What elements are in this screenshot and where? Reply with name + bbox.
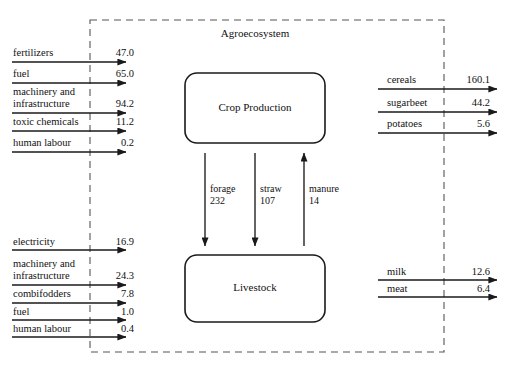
input-label-machinery-livestock-line2: infrastructure: [13, 270, 70, 282]
output-value-meat: 6.4: [447, 283, 490, 294]
output-value-milk: 12.6: [447, 266, 490, 277]
input-value-fuel-crop: 65.0: [96, 68, 134, 79]
output-label-cereals: cereals: [387, 74, 416, 85]
output-label-sugarbeet: sugarbeet: [387, 97, 427, 108]
output-value-sugarbeet: 44.2: [447, 97, 490, 108]
input-value-machinery-crop: 94.2: [96, 98, 134, 109]
internal-value-manure: 14: [309, 195, 319, 206]
input-label-machinery-livestock-line1: machinery and: [13, 258, 75, 270]
internal-label-straw: straw: [260, 183, 282, 194]
crop-production-label: Crop Production: [185, 101, 325, 113]
output-label-meat: meat: [387, 283, 407, 294]
internal-label-forage: forage: [210, 183, 236, 194]
internal-label-manure: manure: [309, 183, 339, 194]
input-label-combifodders: combifodders: [13, 288, 71, 299]
input-value-combifodders: 7.8: [96, 288, 134, 299]
input-label-fertilizers: fertilizers: [13, 47, 53, 58]
agroecosystem-diagram: Agroecosystem Crop Production Livestock …: [0, 0, 507, 372]
input-value-toxic-chemicals: 11.2: [96, 116, 134, 127]
input-label-machinery-crop-line1: machinery and: [13, 86, 75, 98]
output-value-cereals: 160.1: [447, 74, 490, 85]
input-value-human-labour-crop: 0.2: [96, 137, 134, 148]
input-label-fuel-crop: fuel: [13, 68, 29, 79]
input-label-human-labour-crop: human labour: [13, 137, 71, 148]
input-value-electricity: 16.9: [96, 236, 134, 247]
system-title: Agroecosystem: [190, 27, 320, 39]
input-value-human-labour-livestock: 0.4: [96, 323, 134, 334]
output-label-potatoes: potatoes: [387, 118, 422, 129]
input-label-electricity: electricity: [13, 236, 55, 247]
internal-value-forage: 232: [210, 195, 225, 206]
input-value-fertilizers: 47.0: [96, 47, 134, 58]
input-value-fuel-livestock: 1.0: [96, 306, 134, 317]
input-label-machinery-crop-line2: infrastructure: [13, 98, 70, 110]
livestock-label: Livestock: [185, 281, 325, 293]
input-value-machinery-livestock: 24.3: [96, 270, 134, 281]
internal-value-straw: 107: [260, 195, 275, 206]
diagram-graphics: [0, 0, 507, 372]
output-label-milk: milk: [387, 266, 406, 277]
input-label-human-labour-livestock: human labour: [13, 323, 71, 334]
input-label-fuel-livestock: fuel: [13, 306, 29, 317]
input-label-toxic-chemicals: toxic chemicals: [13, 116, 79, 127]
output-value-potatoes: 5.6: [447, 118, 490, 129]
